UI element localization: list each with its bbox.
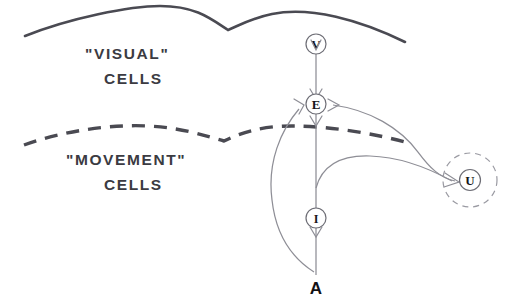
diagram-canvas: "VISUAL" CELLS "MOVEMENT" CELLS	[0, 0, 519, 305]
connection-a-to-e-curve	[271, 109, 314, 272]
node-a-label: A	[310, 279, 322, 298]
node-i-label: I	[314, 212, 319, 226]
node-e-label: E	[312, 97, 321, 112]
visual-cells-label-line2: CELLS	[104, 70, 163, 87]
movement-cells-label-line1: "MOVEMENT"	[66, 151, 186, 168]
diagram-svg: "VISUAL" CELLS "MOVEMENT" CELLS	[0, 0, 519, 305]
connection-i-to-u-curve	[316, 156, 452, 188]
arrowhead-a-to-e	[294, 99, 304, 114]
node-u-label: U	[465, 173, 475, 188]
visual-layer-boundary	[25, 6, 405, 42]
node-e[interactable]: E	[306, 94, 326, 114]
node-v[interactable]: V	[306, 34, 326, 54]
movement-cells-label-line2: CELLS	[104, 176, 163, 193]
movement-layer-boundary	[24, 126, 412, 145]
visual-cells-label-line1: "VISUAL"	[85, 45, 169, 62]
node-i[interactable]: I	[306, 208, 326, 228]
connection-e-to-u-curve	[333, 105, 455, 181]
